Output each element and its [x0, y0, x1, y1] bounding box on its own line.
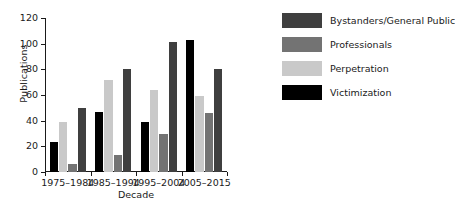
x-axis-title: Decade — [45, 189, 227, 200]
bar — [169, 42, 177, 172]
bar — [78, 108, 86, 172]
bar — [205, 113, 213, 172]
bar — [50, 142, 58, 172]
chart-legend: Bystanders/General PublicProfessionalsPe… — [282, 8, 437, 104]
bar — [141, 122, 149, 172]
legend-swatch — [282, 61, 322, 76]
bar — [68, 164, 76, 172]
legend-swatch — [282, 85, 322, 100]
bar-group: 2005–2015 — [182, 18, 228, 172]
bar — [104, 80, 112, 172]
bar — [114, 155, 122, 172]
bar — [150, 90, 158, 172]
bar — [195, 96, 203, 172]
legend-label: Bystanders/General Public — [330, 15, 455, 26]
bar-group: 1975–1984 — [45, 18, 91, 172]
x-axis-tick-label: 2005–2015 — [178, 177, 231, 188]
legend-label: Victimization — [330, 87, 391, 98]
legend-item: Perpetration — [282, 56, 437, 80]
y-axis-tick-label: 120 — [8, 12, 38, 23]
bar — [186, 40, 194, 172]
y-axis-tick-label: 20 — [8, 140, 38, 151]
legend-item: Victimization — [282, 80, 437, 104]
bar — [123, 69, 131, 172]
y-axis-tick-label: 100 — [8, 38, 38, 49]
x-axis-tick — [45, 172, 46, 176]
y-axis-tick-label: 60 — [8, 89, 38, 100]
legend-item: Professionals — [282, 32, 437, 56]
bar-group: 1995–2004 — [136, 18, 182, 172]
plot-area: 020406080100120 1975–19841985–19941995–2… — [45, 18, 227, 172]
legend-label: Professionals — [330, 39, 392, 50]
legend-label: Perpetration — [330, 63, 389, 74]
bar — [59, 122, 67, 172]
x-axis-tick — [182, 172, 183, 176]
y-axis-tick-label: 80 — [8, 63, 38, 74]
x-axis-tick — [136, 172, 137, 176]
bar — [95, 112, 103, 172]
bar — [159, 134, 167, 173]
y-axis-tick-label: 40 — [8, 115, 38, 126]
legend-item: Bystanders/General Public — [282, 8, 437, 32]
legend-swatch — [282, 13, 322, 28]
x-axis-tick — [227, 172, 228, 176]
x-axis-tick — [91, 172, 92, 176]
bar — [214, 69, 222, 172]
y-axis-tick-label: 0 — [8, 166, 38, 177]
legend-swatch — [282, 37, 322, 52]
bar-group: 1985–1994 — [91, 18, 137, 172]
